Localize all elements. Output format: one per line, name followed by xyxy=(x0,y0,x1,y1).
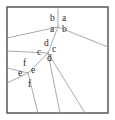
region-label-b-bottom-right: b xyxy=(62,25,67,35)
region-label-d-top: d xyxy=(44,39,49,49)
region-label-f-top: f xyxy=(23,59,26,69)
region-label-a-bottom-left: a xyxy=(50,25,54,35)
region-label-a-top-right: a xyxy=(62,14,66,24)
region-label-b-top-left: b xyxy=(50,14,55,24)
region-label-c-left: c xyxy=(37,48,41,58)
diagram-canvas xyxy=(0,0,115,120)
line-arrangement-figure: b a a b d c c d f e e f xyxy=(0,0,115,120)
region-label-f-bottom: f xyxy=(28,80,31,90)
region-label-e-right: e xyxy=(31,66,35,76)
region-label-e-left: e xyxy=(18,69,22,79)
region-label-d-bottom: d xyxy=(47,54,52,64)
region-label-c-right: c xyxy=(52,45,56,55)
